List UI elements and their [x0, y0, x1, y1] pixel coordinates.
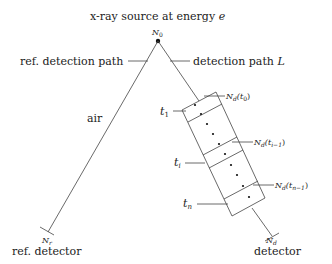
- detector-label: detector: [254, 245, 302, 258]
- ref-detector-icon: [40, 227, 54, 235]
- count-label-nd-tn1: Nd(tn−1): [274, 181, 308, 191]
- layer-label-tn: tn: [183, 197, 192, 211]
- det-path-label: detection path L: [193, 55, 285, 68]
- sample-box: [182, 92, 265, 216]
- medium-label: air: [87, 112, 103, 125]
- layer-boundary-1: [188, 104, 222, 122]
- layer-boundary-n-1: [224, 181, 258, 199]
- count-label-nd-t0: Nd(t0): [225, 92, 250, 102]
- detection-path-line-lower: [252, 208, 272, 236]
- detection-path-line: [158, 41, 199, 101]
- layer-label-t1: t1: [160, 105, 169, 119]
- layer-boundary-i-1: [203, 137, 237, 155]
- ref-detection-path-line: [48, 41, 158, 232]
- diagram-canvas: x-ray source at energy e N0 ref. detecti…: [0, 0, 332, 264]
- title: x-ray source at energy e: [90, 10, 226, 23]
- layer-label-ti: ti: [174, 156, 181, 170]
- ref-path-label: ref. detection path: [20, 55, 123, 68]
- layer-boundary-i: [209, 150, 243, 168]
- source-label: N0: [151, 28, 163, 38]
- ref-detector-label: ref. detector: [12, 245, 82, 258]
- count-label-nd-ti1: Nd(ti−1): [253, 138, 285, 148]
